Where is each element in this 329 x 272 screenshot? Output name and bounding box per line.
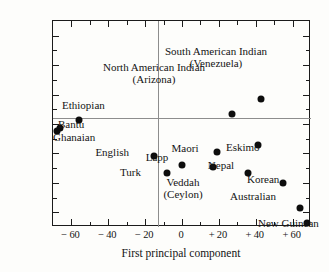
tick-mark bbox=[53, 168, 57, 169]
data-point-label: Veddah(Ceylon) bbox=[163, 177, 202, 200]
tick-mark bbox=[303, 153, 309, 154]
x-tick-label: − 60 bbox=[61, 229, 79, 240]
data-point bbox=[214, 148, 221, 155]
tick-mark bbox=[293, 21, 294, 27]
data-point-label: Bantu bbox=[58, 119, 84, 131]
data-point-label: New Guinean bbox=[258, 218, 319, 230]
tick-mark bbox=[303, 183, 309, 184]
data-point-label: English bbox=[95, 147, 129, 159]
tick-mark bbox=[108, 21, 109, 27]
data-point-label: Korean bbox=[247, 174, 279, 186]
tick-mark bbox=[303, 212, 309, 213]
data-point-label: Maori bbox=[172, 143, 199, 155]
tick-mark bbox=[108, 219, 109, 225]
data-point bbox=[296, 204, 303, 211]
data-point bbox=[258, 95, 265, 102]
tick-mark bbox=[182, 219, 183, 225]
vertical-zero-axis-line bbox=[158, 21, 159, 227]
tick-mark bbox=[274, 21, 275, 25]
x-tick-label: + 60 bbox=[282, 229, 300, 240]
tick-mark bbox=[164, 21, 165, 25]
tick-mark bbox=[53, 50, 57, 51]
data-point-label: Australian bbox=[230, 191, 276, 203]
data-point-label: Ghanaian bbox=[53, 132, 95, 144]
tick-mark bbox=[306, 198, 310, 199]
tick-mark bbox=[200, 222, 201, 226]
tick-mark bbox=[303, 95, 309, 96]
tick-mark bbox=[219, 219, 220, 225]
data-point-label: Turk bbox=[120, 167, 141, 179]
tick-mark bbox=[306, 50, 310, 51]
tick-mark bbox=[90, 21, 91, 25]
tick-mark bbox=[53, 183, 59, 184]
data-point-label: Nepal bbox=[208, 160, 234, 172]
horizontal-zero-axis-line bbox=[53, 118, 311, 119]
data-point bbox=[164, 169, 171, 176]
tick-mark bbox=[303, 36, 309, 37]
tick-mark bbox=[306, 168, 310, 169]
tick-mark bbox=[53, 65, 59, 66]
tick-mark bbox=[71, 219, 72, 225]
tick-mark bbox=[306, 139, 310, 140]
tick-mark bbox=[303, 65, 309, 66]
tick-mark bbox=[219, 21, 220, 27]
x-tick-label: − 40 bbox=[98, 229, 116, 240]
tick-mark bbox=[53, 109, 57, 110]
data-point bbox=[228, 110, 235, 117]
data-point-label: South American Indian(Venezuela) bbox=[165, 46, 267, 69]
tick-mark bbox=[237, 21, 238, 25]
tick-mark bbox=[145, 219, 146, 225]
tick-mark bbox=[53, 198, 57, 199]
tick-mark bbox=[200, 21, 201, 25]
tick-mark bbox=[256, 219, 257, 225]
data-point-label: Lapp bbox=[146, 152, 169, 164]
tick-mark bbox=[71, 21, 72, 27]
tick-mark bbox=[127, 222, 128, 226]
data-point bbox=[179, 162, 186, 169]
data-point bbox=[280, 179, 287, 186]
tick-mark bbox=[53, 36, 59, 37]
data-point-label: Eskimo bbox=[226, 142, 260, 154]
tick-mark bbox=[90, 222, 91, 226]
tick-mark bbox=[145, 21, 146, 27]
tick-mark bbox=[306, 109, 310, 110]
tick-mark bbox=[237, 222, 238, 226]
x-tick-label: + 40 bbox=[246, 229, 264, 240]
tick-mark bbox=[53, 80, 57, 81]
x-tick-label: 0 bbox=[178, 229, 183, 240]
tick-mark bbox=[256, 21, 257, 27]
x-axis-title: First principal component bbox=[122, 247, 241, 259]
tick-mark bbox=[127, 21, 128, 25]
principal-component-scatter-figure: − 60− 40− 200+ 20+ 40+ 60+ 60+ 40+ 200− … bbox=[0, 0, 329, 272]
tick-mark bbox=[53, 212, 59, 213]
tick-mark bbox=[53, 153, 59, 154]
data-point-label: Ethiopian bbox=[62, 100, 105, 112]
tick-mark bbox=[53, 95, 59, 96]
x-tick-label: + 20 bbox=[209, 229, 227, 240]
x-tick-label: − 20 bbox=[135, 229, 153, 240]
tick-mark bbox=[164, 222, 165, 226]
tick-mark bbox=[303, 124, 309, 125]
tick-mark bbox=[306, 80, 310, 81]
tick-mark bbox=[182, 21, 183, 27]
